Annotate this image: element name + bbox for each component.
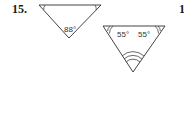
triangle-2 [103, 26, 165, 72]
angle-label-55-right: 55° [138, 30, 150, 39]
angle-arc-bottom-1 [126, 59, 140, 62]
angle-arc-top-right [95, 5, 96, 10]
figure-canvas: 88° 55° 55° [0, 0, 184, 128]
angle-arc-top-left-2 [109, 26, 113, 34]
angle-arc-top-right-2 [155, 26, 159, 34]
angle-label-88: 88° [64, 25, 76, 34]
angle-arc-bottom-2 [124, 55, 142, 59]
angle-arc-top-left [44, 5, 45, 10]
angle-label-55-left: 55° [117, 30, 129, 39]
